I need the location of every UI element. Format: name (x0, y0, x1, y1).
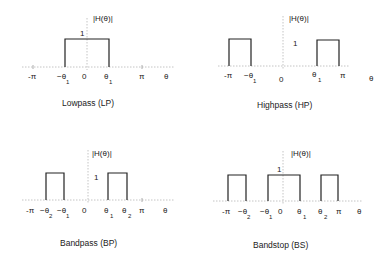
sub: 1 (66, 79, 70, 85)
sub: 1 (66, 213, 70, 219)
x-axis-label: θ (357, 207, 362, 216)
sub: 2 (247, 214, 251, 220)
y-axis-label: |H(θ)| (291, 149, 311, 158)
panel-bandpass: |H(θ)| 1 -π −θ 2 −θ 1 0 θ 1 θ 2 π θ Band… (22, 149, 175, 248)
label-neg-pi: -π (224, 71, 233, 80)
label-zero: 0 (82, 72, 87, 81)
label-theta2: θ (122, 206, 127, 215)
label-zero: 0 (82, 206, 87, 215)
y-axis-label: |H(θ)| (93, 14, 113, 23)
label-theta1: θ (312, 70, 317, 79)
sub: 2 (324, 214, 328, 220)
sub: 2 (49, 213, 53, 219)
label-neg-pi: -π (28, 72, 37, 81)
unit-level-label: 1 (94, 173, 99, 182)
y-axis-label: |H(θ)| (289, 14, 309, 23)
panel-title: Bandstop (BS) (253, 240, 308, 250)
sub: 1 (109, 79, 113, 85)
x-axis-label: θ (369, 74, 374, 83)
unit-level-label: 1 (277, 165, 282, 174)
panel-title: Highpass (HP) (257, 100, 312, 110)
passband-right (317, 40, 339, 66)
label-pi: π (340, 71, 346, 80)
label-zero: 0 (279, 75, 284, 84)
unit-level-label: 1 (80, 29, 85, 38)
passband-left (229, 39, 251, 66)
label-theta2: θ (318, 207, 323, 216)
sub: 1 (303, 214, 307, 220)
passband-right (108, 173, 127, 200)
panel-title: Bandpass (BP) (60, 238, 117, 248)
label-neg-pi: -π (26, 206, 35, 215)
sub: 2 (128, 213, 132, 219)
unit-level-label: 1 (293, 39, 298, 48)
label-neg-pi: -π (222, 207, 231, 216)
label-theta1: θ (104, 206, 109, 215)
panel-lowpass: |H(θ)| 1 -π −θ 1 0 θ 1 π θ Lowpass (LP) (22, 14, 175, 108)
sub: 1 (253, 78, 257, 84)
filter-diagram: |H(θ)| 1 -π −θ 1 0 θ 1 π θ Lowpass (LP) … (0, 0, 385, 263)
panel-highpass: |H(θ)| 1 -π −θ 1 0 θ 1 π θ Highpass (HP) (218, 14, 374, 110)
x-axis-label: θ (164, 72, 169, 81)
label-theta1: θ (297, 207, 302, 216)
sub: 1 (269, 214, 273, 220)
panel-bandstop: |H(θ)| 1 -π −θ 2 −θ 1 0 θ 1 θ 2 π θ Band… (213, 149, 362, 250)
label-zero: 0 (278, 207, 283, 216)
label-pi: π (336, 207, 342, 216)
passband-right (321, 175, 338, 201)
passband-left (228, 175, 246, 201)
y-axis-label: |H(θ)| (92, 149, 112, 158)
sub: 1 (110, 213, 114, 219)
x-axis-label: θ (163, 206, 168, 215)
label-pi: π (139, 72, 145, 81)
passband-left (46, 173, 64, 200)
sub: 1 (318, 77, 322, 83)
passband-center (268, 175, 300, 201)
label-pi: π (139, 206, 145, 215)
panel-title: Lowpass (LP) (62, 98, 114, 108)
